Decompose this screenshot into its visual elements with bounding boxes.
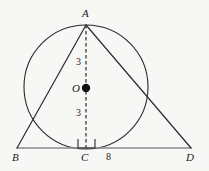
geometry-diagram-canvas: A B C D O 3 3 8: [0, 0, 209, 171]
vertex-label-D: D: [186, 152, 194, 163]
segment-AD: [86, 25, 191, 148]
center-point-dot: [82, 84, 90, 92]
vertex-label-C: C: [81, 152, 88, 163]
measure-label-lower-3: 3: [76, 108, 81, 118]
measure-label-upper-3: 3: [76, 57, 81, 67]
measure-label-base-8: 8: [106, 152, 111, 162]
center-label-O: O: [72, 83, 80, 94]
vertex-label-B: B: [12, 152, 19, 163]
vertex-label-A: A: [82, 8, 89, 19]
geometry-figure: [0, 0, 209, 171]
